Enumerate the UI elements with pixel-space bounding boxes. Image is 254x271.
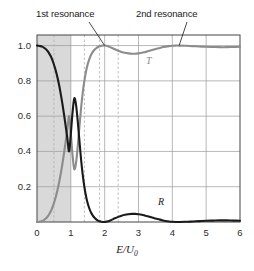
x-tick-label: 4	[165, 227, 179, 238]
x-tick-label: 3	[132, 227, 146, 238]
y-tick-label: 0.2	[7, 181, 31, 192]
y-tick-label: 0.4	[7, 145, 31, 156]
y-tick-label: 0.8	[7, 75, 31, 86]
curve-label-R: R	[158, 196, 164, 207]
x-tick-label: 6	[233, 227, 247, 238]
x-axis-title-main: E/U	[116, 243, 134, 255]
x-axis-title: E/U0	[0, 243, 254, 258]
x-tick-label: 1	[64, 227, 78, 238]
y-tick-label: 0.6	[7, 110, 31, 121]
y-tick-label: 1.0	[7, 40, 31, 51]
x-tick-label: 2	[98, 227, 112, 238]
curve-label-T: T	[146, 55, 152, 66]
annotation-first-resonance: 1st resonance	[36, 8, 94, 19]
x-axis-title-subscript: 0	[134, 249, 138, 258]
x-tick-label: 0	[30, 227, 44, 238]
x-tick-label: 5	[199, 227, 213, 238]
annotation-second-resonance: 2nd resonance	[136, 8, 198, 19]
